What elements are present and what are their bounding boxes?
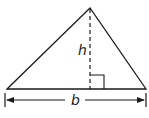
triangle-diagram: h b — [0, 0, 149, 118]
arrow-left-icon — [6, 97, 14, 103]
right-angle-marker — [90, 75, 104, 89]
base-label: b — [71, 92, 80, 108]
triangle — [7, 8, 146, 89]
arrow-right-icon — [137, 97, 145, 103]
height-label: h — [78, 42, 87, 58]
